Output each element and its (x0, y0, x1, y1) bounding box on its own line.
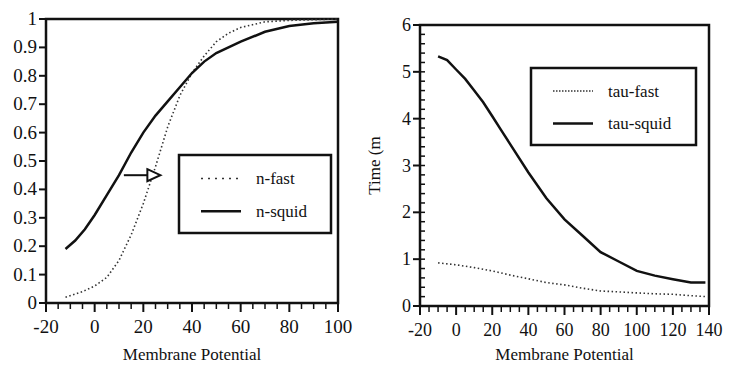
x-tick-label: 40 (183, 316, 202, 337)
legend: n-fastn-squid (179, 155, 331, 233)
x-tick-label: -20 (33, 316, 58, 337)
y-tick-label: 5 (402, 62, 411, 82)
y-tick-label: 0.2 (13, 235, 37, 256)
y-axis: 0123456 (402, 15, 425, 316)
legend-label: tau-fast (608, 82, 659, 101)
x-tick-label: 80 (592, 320, 610, 340)
legend-label: n-squid (256, 202, 308, 221)
x-tick-label: 120 (659, 320, 686, 340)
x-tick-label: 60 (231, 316, 250, 337)
chart-2: 0123456-20020406080100120140Membrane Pot… (365, 15, 723, 364)
x-tick-label: -20 (408, 320, 432, 340)
y-tick-label: 0.5 (13, 150, 37, 171)
chart-1: 00.10.20.30.40.50.60.70.80.91-2002040608… (13, 8, 352, 364)
y-tick-label: 6 (402, 15, 411, 35)
x-tick-label: 60 (556, 320, 574, 340)
y-tick-label: 3 (402, 156, 411, 176)
y-tick-label: 1 (28, 8, 38, 29)
x-axis-label: Membrane Potential (495, 345, 634, 364)
y-tick-label: 0 (402, 296, 411, 316)
legend: tau-fasttau-squid (531, 68, 696, 145)
y-tick-label: 0.3 (13, 207, 37, 228)
y-tick-label: 1 (402, 249, 411, 269)
x-tick-label: 100 (324, 316, 353, 337)
x-tick-label: 0 (452, 320, 461, 340)
y-tick-label: 0 (28, 292, 38, 313)
x-tick-label: 140 (696, 320, 723, 340)
y-tick-label: 4 (402, 109, 411, 129)
y-tick-label: 0.8 (13, 65, 37, 86)
shift-arrow-icon (124, 169, 161, 181)
y-axis: 00.10.20.30.40.50.60.70.80.91 (13, 8, 46, 313)
y-tick-label: 0.6 (13, 122, 37, 143)
y-tick-label: 0.1 (13, 264, 37, 285)
legend-label: tau-squid (608, 114, 672, 133)
x-axis: -20020406080100 (33, 303, 352, 337)
x-axis: -20020406080100120140 (408, 306, 723, 340)
figure: 00.10.20.30.40.50.60.70.80.91-2002040608… (0, 0, 731, 373)
y-axis-label: Time (m (365, 136, 384, 194)
y-tick-label: 0.9 (13, 36, 37, 57)
x-tick-label: 40 (519, 320, 537, 340)
y-tick-label: 0.7 (13, 93, 37, 114)
legend-label: n-fast (256, 169, 295, 188)
series-tau-fast (438, 263, 705, 297)
x-tick-label: 0 (90, 316, 100, 337)
y-tick-label: 0.4 (13, 178, 37, 199)
x-tick-label: 20 (483, 320, 501, 340)
x-tick-label: 100 (623, 320, 650, 340)
x-axis-label: Membrane Potential (123, 345, 262, 364)
x-tick-label: 20 (134, 316, 153, 337)
y-tick-label: 2 (402, 202, 411, 222)
x-tick-label: 80 (280, 316, 299, 337)
